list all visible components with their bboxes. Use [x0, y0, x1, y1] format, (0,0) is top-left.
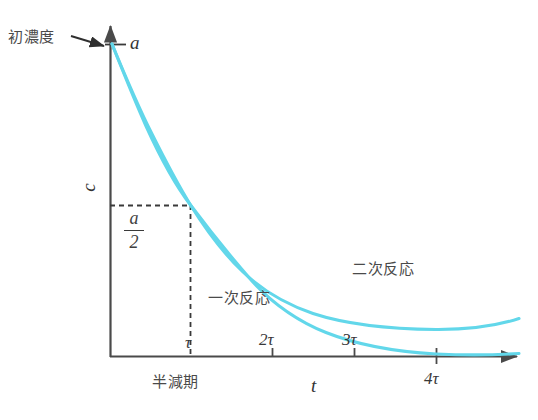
- curve-second-order: [112, 44, 519, 330]
- second-order-curve-label: 二次反応: [352, 262, 414, 277]
- x-tick-label-3tau: 3τ: [342, 331, 357, 348]
- x-tick-label-2tau: 2τ: [259, 331, 274, 348]
- chart-canvas: [0, 0, 538, 420]
- half-life-label: 半減期: [152, 375, 199, 390]
- first-order-curve-label: 一次反応: [208, 291, 270, 306]
- a-half-numerator: a: [119, 208, 149, 229]
- initial-concentration-label: 初濃度: [8, 30, 55, 45]
- reaction-order-decay-chart: 初濃度 a c a 2 τ 2τ 3τ 4τ t 半減期 一次反応 二次反応: [0, 0, 538, 420]
- a-half-denominator: 2: [119, 232, 149, 253]
- x-tick-label-4tau: 4τ: [424, 370, 439, 387]
- y-axis-value-a-label: a: [130, 33, 140, 52]
- curve-first-order: [112, 44, 519, 355]
- fraction-bar: [124, 230, 144, 231]
- y-axis-value-a-half-label: a 2: [119, 208, 149, 252]
- x-axis-title: t: [311, 376, 316, 395]
- initial-concentration-arrow: [71, 36, 104, 46]
- x-tick-label-tau: τ: [185, 334, 191, 351]
- y-axis-title: c: [79, 183, 98, 191]
